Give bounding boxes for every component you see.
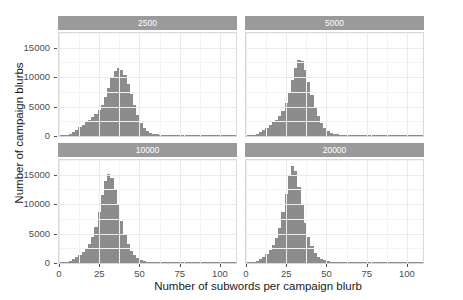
y-axis-tick-mark xyxy=(54,263,57,264)
grid-line-minor-horizontal xyxy=(59,160,236,161)
facet-strip-label-5000: 5000 xyxy=(245,16,424,30)
x-axis-tick-label: 75 xyxy=(165,268,195,280)
x-axis-tick-mark xyxy=(99,264,100,267)
grid-line-minor-horizontal xyxy=(246,219,423,220)
grid-line-major-horizontal xyxy=(59,107,236,108)
x-axis-tick-label: 50 xyxy=(124,268,154,280)
grid-line-minor-horizontal xyxy=(59,92,236,93)
x-axis-tick-label: 0 xyxy=(231,268,261,280)
x-axis-tick-label: 100 xyxy=(392,268,422,280)
x-axis-tick-label: 25 xyxy=(271,268,301,280)
facet-panel-5000: 5000 xyxy=(245,16,424,137)
y-axis-tick: 15000 xyxy=(6,42,50,54)
grid-line-minor-horizontal xyxy=(246,189,423,190)
y-axis-tick: 5000 xyxy=(6,228,50,240)
x-axis-tick-mark xyxy=(286,264,287,267)
x-axis-tick-mark xyxy=(180,264,181,267)
grid-line-minor-horizontal xyxy=(59,33,236,34)
facet-strip-label-20000: 20000 xyxy=(245,143,424,157)
grid-line-major-horizontal xyxy=(59,175,236,176)
grid-line-major-horizontal xyxy=(59,77,236,78)
grid-line-minor-horizontal xyxy=(59,121,236,122)
facet-panel-10000: 10000 xyxy=(58,143,237,264)
y-axis-tick: 15000 xyxy=(6,169,50,181)
grid-line-minor-horizontal xyxy=(246,33,423,34)
plot-panel-5000 xyxy=(245,32,424,137)
y-axis-tick-mark xyxy=(54,107,57,108)
x-axis-tick-label: 25 xyxy=(84,268,114,280)
faceted-histogram-figure: Number of campaign blurbs Number of subw… xyxy=(0,0,463,300)
grid-line-minor-horizontal xyxy=(246,121,423,122)
facet-strip-label-2500: 2500 xyxy=(58,16,237,30)
y-axis-tick: 5000 xyxy=(6,101,50,113)
x-axis-tick-mark xyxy=(59,264,60,267)
grid-line-major-horizontal xyxy=(59,204,236,205)
y-axis-tick-mark xyxy=(54,234,57,235)
grid-line-minor-horizontal xyxy=(246,92,423,93)
grid-line-major-horizontal xyxy=(246,107,423,108)
y-axis-tick-label: 15000 xyxy=(6,42,50,54)
plot-panel-20000 xyxy=(245,159,424,264)
grid-line-major-horizontal xyxy=(246,136,423,137)
grid-line-minor-horizontal xyxy=(59,248,236,249)
grid-line-major-horizontal xyxy=(246,234,423,235)
grid-line-minor-horizontal xyxy=(246,248,423,249)
x-axis-tick-mark xyxy=(367,264,368,267)
y-axis-tick-label: 10000 xyxy=(6,198,50,210)
y-axis-tick-label: 15000 xyxy=(6,169,50,181)
facet-panel-20000: 20000 xyxy=(245,143,424,264)
grid-line-major-horizontal xyxy=(59,136,236,137)
grid-line-minor-horizontal xyxy=(59,219,236,220)
y-axis-tick: 10000 xyxy=(6,71,50,83)
y-axis-tick-mark xyxy=(54,48,57,49)
y-axis-tick-mark xyxy=(54,77,57,78)
grid-line-minor-horizontal xyxy=(246,160,423,161)
grid-line-major-horizontal xyxy=(246,175,423,176)
grid-line-major-horizontal xyxy=(246,77,423,78)
x-axis-tick-mark xyxy=(220,264,221,267)
grid-line-major-horizontal xyxy=(246,48,423,49)
facet-strip-label-10000: 10000 xyxy=(58,143,237,157)
y-axis-tick: 0 xyxy=(6,130,50,142)
y-axis-tick: 10000 xyxy=(6,198,50,210)
x-axis-tick-mark xyxy=(326,264,327,267)
y-axis-tick-label: 10000 xyxy=(6,71,50,83)
x-axis-tick-mark xyxy=(139,264,140,267)
grid-line-major-horizontal xyxy=(59,48,236,49)
facet-panel-2500: 2500 xyxy=(58,16,237,137)
grid-line-major-horizontal xyxy=(59,263,236,264)
grid-line-minor-horizontal xyxy=(59,189,236,190)
grid-line-minor-horizontal xyxy=(59,62,236,63)
plot-panel-10000 xyxy=(58,159,237,264)
y-axis-tick-label: 5000 xyxy=(6,228,50,240)
x-axis-title: Number of subwords per campaign blurb xyxy=(58,278,458,294)
y-axis-tick-label: 0 xyxy=(6,130,50,142)
y-axis-tick-mark xyxy=(54,204,57,205)
y-axis-tick-label: 5000 xyxy=(6,101,50,113)
grid-line-major-horizontal xyxy=(246,263,423,264)
plot-panel-2500 xyxy=(58,32,237,137)
x-axis-tick-label: 0 xyxy=(44,268,74,280)
y-axis-tick-mark xyxy=(54,175,57,176)
x-axis-tick-mark xyxy=(407,264,408,267)
x-axis-tick-mark xyxy=(246,264,247,267)
grid-line-major-horizontal xyxy=(246,204,423,205)
x-axis-tick-label: 75 xyxy=(352,268,382,280)
grid-line-major-horizontal xyxy=(59,234,236,235)
grid-line-minor-horizontal xyxy=(246,62,423,63)
x-axis-tick-label: 50 xyxy=(311,268,341,280)
y-axis-tick-mark xyxy=(54,136,57,137)
